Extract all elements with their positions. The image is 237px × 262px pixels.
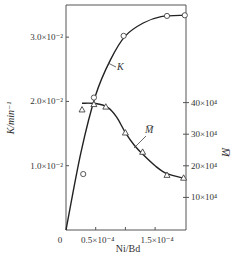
- m-triangle-marker: [79, 107, 85, 112]
- y-tick-label: 2.0×10⁻²: [30, 96, 63, 106]
- k-circle-marker: [81, 171, 86, 176]
- y2-tick-label: 40×10⁴: [191, 98, 217, 108]
- k-circle-marker: [91, 95, 96, 100]
- curve-label-k: K: [116, 61, 125, 72]
- x-tick-label: 1.5×10⁻⁴: [140, 235, 173, 245]
- x-axis-label: Ni/Bd: [116, 243, 140, 254]
- k-circle-marker: [121, 33, 126, 38]
- m-leader-line: [134, 136, 146, 148]
- k-leader-line: [108, 63, 116, 67]
- k-circle-marker: [182, 13, 187, 18]
- plot-frame: [66, 5, 186, 230]
- x-tick-label: 0.5×10⁻⁴: [81, 235, 114, 245]
- m-triangle-marker: [122, 130, 128, 135]
- k-curve: [66, 15, 185, 230]
- y2-tick-label: 30×10⁴: [191, 129, 217, 139]
- axis-labels: Ni/Bd K/min⁻¹ M̅ K M̅: [5, 61, 232, 254]
- y2-tick-label: 20×10⁴: [191, 161, 217, 171]
- y-tick-label: 3.0×10⁻²: [30, 32, 63, 42]
- y-axis-label: K/min⁻¹: [5, 102, 16, 136]
- y-tick-label: 1.0×10⁻²: [30, 161, 63, 171]
- data-curves: [66, 15, 185, 230]
- y2-tick-label: 10×10⁴: [191, 192, 217, 202]
- m-triangle-marker: [103, 104, 109, 109]
- data-markers: [79, 13, 187, 181]
- y2-axis-label: M̅: [220, 146, 232, 157]
- m-curve: [82, 103, 185, 178]
- k-circle-marker: [164, 13, 169, 18]
- chart: 00.5×10⁻⁴1.5×10⁻⁴1.0×10⁻²2.0×10⁻²3.0×10⁻…: [0, 0, 237, 262]
- curve-label-m: M̅: [144, 124, 154, 135]
- x-tick-label: 0: [58, 235, 63, 245]
- axis-ticks: 00.5×10⁻⁴1.5×10⁻⁴1.0×10⁻²2.0×10⁻²3.0×10⁻…: [30, 32, 217, 245]
